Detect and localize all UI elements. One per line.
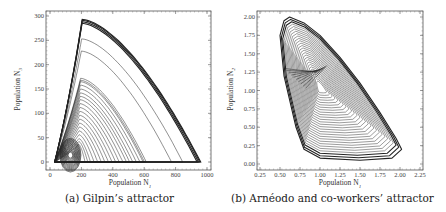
svg-text:300: 300 <box>34 12 44 19</box>
y-tick-labels: 050100150200250300 <box>34 12 44 165</box>
svg-text:0: 0 <box>41 158 44 165</box>
svg-text:2.00: 2.00 <box>394 171 405 178</box>
svg-text:1000: 1000 <box>201 171 214 178</box>
svg-text:1.00: 1.00 <box>314 171 325 178</box>
svg-text:0.25: 0.25 <box>244 142 255 149</box>
trajectory-curves <box>280 17 402 160</box>
svg-text:1.25: 1.25 <box>334 171 345 178</box>
svg-text:1.75: 1.75 <box>374 171 385 178</box>
y-tick-labels: 0.000.250.500.751.001.251.501.752.00 <box>244 13 255 167</box>
x-axis-label: Population N1 <box>90 178 170 189</box>
svg-text:1.75: 1.75 <box>244 31 255 38</box>
svg-text:1.50: 1.50 <box>354 171 365 178</box>
svg-text:1.00: 1.00 <box>244 87 255 94</box>
y-axis-label: Population N2 <box>226 59 237 119</box>
svg-text:800: 800 <box>171 171 181 178</box>
svg-text:0.75: 0.75 <box>294 171 305 178</box>
svg-text:0.00: 0.00 <box>244 160 255 167</box>
svg-text:0.50: 0.50 <box>244 123 255 130</box>
svg-text:150: 150 <box>34 85 44 92</box>
y-axis-label: Population N3 <box>13 59 24 119</box>
trajectory-arc <box>55 20 200 162</box>
svg-text:600: 600 <box>139 171 149 178</box>
inner-loop <box>68 152 73 158</box>
svg-text:0: 0 <box>48 171 51 178</box>
caption-a: (a) Gilpin’s attractor <box>8 192 231 204</box>
svg-text:200: 200 <box>77 171 87 178</box>
panel-gilpin: 02004006008001000 050100150200250300 Pop… <box>0 0 223 212</box>
svg-text:2.00: 2.00 <box>244 13 255 20</box>
trajectory-curves <box>55 19 201 172</box>
svg-text:250: 250 <box>34 36 44 43</box>
svg-text:200: 200 <box>34 61 44 68</box>
svg-text:400: 400 <box>108 171 118 178</box>
svg-text:100: 100 <box>34 109 44 116</box>
svg-text:50: 50 <box>38 134 45 141</box>
caption-b: (b) Arnéodo and co-workers’ attractor <box>221 192 444 204</box>
svg-text:2.25: 2.25 <box>414 171 425 178</box>
x-tick-labels: 0.250.500.751.001.251.501.752.002.25 <box>254 171 425 178</box>
svg-text:0.75: 0.75 <box>244 105 255 112</box>
svg-text:1.25: 1.25 <box>244 68 255 75</box>
trajectory-arc <box>55 19 201 162</box>
panel-arneodo: 0.250.500.751.001.251.501.752.002.25 0.0… <box>223 0 446 212</box>
svg-text:0.25: 0.25 <box>254 171 265 178</box>
x-axis-label: Population N1 <box>300 178 380 189</box>
svg-text:0.50: 0.50 <box>274 171 285 178</box>
x-tick-labels: 02004006008001000 <box>48 171 213 178</box>
svg-text:1.50: 1.50 <box>244 50 255 57</box>
